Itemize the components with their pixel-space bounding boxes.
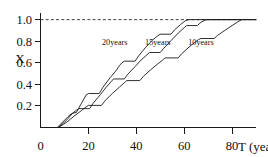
x-tick-label: 60 bbox=[178, 139, 191, 153]
x-axis-title: T (year) bbox=[238, 139, 268, 154]
y-tick-label: 0.4 bbox=[16, 78, 32, 92]
y-tick-label: 1.0 bbox=[16, 13, 32, 27]
y-axis-title: X bbox=[15, 51, 25, 66]
series-label-10years: 10years bbox=[188, 38, 213, 47]
series-label-20years: 20years bbox=[102, 38, 127, 47]
series-paths bbox=[57, 20, 256, 128]
line-chart-svg: 0.20.40.60.81.0 020406080 X T (year) 20y… bbox=[0, 0, 268, 157]
x-tick-label: 80 bbox=[226, 139, 239, 153]
x-tick-label: 0 bbox=[37, 139, 43, 153]
y-tick-label: 0.8 bbox=[16, 35, 32, 49]
series-inline-labels: 20years15years10years bbox=[102, 38, 214, 47]
series-line-20years bbox=[57, 20, 256, 128]
x-axis-ticks bbox=[88, 128, 232, 134]
series-label-15years: 15years bbox=[145, 38, 170, 47]
y-axis-ticks bbox=[35, 20, 41, 106]
y-tick-label: 0.2 bbox=[16, 99, 32, 113]
x-tick-label: 20 bbox=[82, 139, 95, 153]
chart-axes bbox=[40, 13, 256, 128]
chart-figure: 0.20.40.60.81.0 020406080 X T (year) 20y… bbox=[0, 0, 268, 157]
x-axis-tick-labels: 020406080 bbox=[37, 139, 238, 153]
series-line-10years bbox=[58, 20, 241, 128]
x-tick-label: 40 bbox=[130, 139, 143, 153]
